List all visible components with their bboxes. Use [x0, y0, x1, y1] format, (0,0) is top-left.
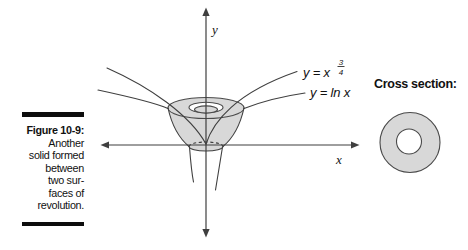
caption-bottom-rule	[22, 222, 84, 227]
caption-line: Another	[16, 137, 84, 150]
caption-line: faces of	[16, 187, 84, 200]
equation-x34-exponent-denominator: 4	[339, 68, 344, 77]
caption-line: solid formed	[16, 149, 84, 162]
equation-x34-label: y = x	[302, 65, 331, 80]
figure-panel: y x y = x 3 4 y = ln x Cross section:	[0, 0, 468, 250]
cross-section-label: Cross section:	[374, 77, 457, 91]
equation-labels: y = x 3 4 y = ln x	[302, 58, 351, 101]
figure-number: Figure 10-9:	[16, 124, 84, 137]
cross-section: Cross section:	[374, 77, 457, 173]
x-axis-arrow-left	[101, 141, 110, 148]
curve-lnx-left	[98, 90, 168, 109]
x-axis-arrow-right	[351, 141, 360, 148]
caption-top-rule	[22, 112, 84, 117]
caption-line: between	[16, 162, 84, 175]
curve-lnx-right	[244, 93, 305, 109]
equation-lnx-label: y = ln x	[309, 85, 351, 100]
caption-line: revolution.	[16, 199, 84, 212]
y-axis-label: y	[210, 22, 218, 37]
y-axis-arrow-up	[202, 8, 209, 17]
y-axis-arrow-down	[202, 229, 209, 238]
x-axis-label: x	[335, 152, 342, 167]
equation-x34-exponent-numerator: 3	[339, 58, 344, 67]
caption-line: two sur-	[16, 174, 84, 187]
curve-lnx-tail-left	[190, 147, 194, 182]
cross-section-inner-circle	[397, 129, 422, 154]
figure-caption: Figure 10-9: Another solid formed betwee…	[16, 112, 84, 226]
curve-lnx-tail-right	[216, 147, 223, 190]
